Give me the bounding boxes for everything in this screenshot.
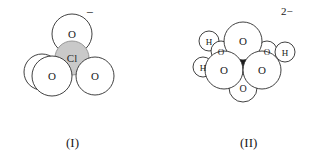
structure-ii-top-oxygen-label: O [239, 35, 247, 47]
structure-ii-upper-right-hydrogen-label: H [282, 48, 289, 58]
structure-i-central-chlorine-label: Cl [67, 52, 77, 64]
structure-i-caption: (I) [66, 136, 79, 149]
structure-i-front-right-oxygen-label: O [91, 70, 99, 82]
structure-ii-upper-right-hydroxyl-oxygen-label: O [264, 47, 271, 57]
molecular-structures-figure: O Cl O O O O O O O H O [0, 0, 313, 166]
structure-ii-upper-left-hydrogen-label: H [206, 37, 213, 47]
structure-ii-front-left-oxygen-label: O [220, 64, 228, 76]
structure-i-front-left-oxygen-label: O [48, 70, 56, 82]
structure-ii-upper-left-hydroxyl-oxygen-label: O [218, 47, 225, 57]
structure-ii-lower-left-hydrogen-label: H [200, 63, 207, 73]
structure-ii-charge-label: 2− [281, 6, 293, 17]
structure-i-charge-label: − [86, 6, 93, 19]
structure-ii-bottom-oxygen-label: O [239, 83, 246, 94]
structure-ii-front-right-oxygen-label: O [258, 64, 266, 76]
structure-ii-caption: (II) [240, 136, 257, 149]
structure-i-top-oxygen-label: O [68, 28, 76, 40]
